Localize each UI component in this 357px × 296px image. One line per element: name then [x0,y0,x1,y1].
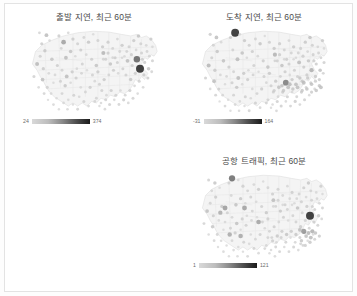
airport-marker [229,110,231,112]
airport-marker [237,246,240,249]
airport-marker [229,227,232,230]
airport-marker [305,196,308,199]
airport-marker [229,175,235,181]
airport-marker [248,44,251,47]
airport-marker [280,84,284,88]
airport-marker [102,78,105,81]
airport-marker [106,41,109,44]
airport-marker [236,57,240,61]
airport-marker [266,65,270,69]
airport-marker [250,219,253,222]
airport-marker [71,70,74,73]
airport-marker [232,94,235,97]
airport-marker [56,64,59,67]
airport-marker [271,198,275,202]
airport-marker [71,37,74,40]
airport-marker [277,221,280,224]
airport-marker [60,47,63,50]
airport-marker [299,242,302,245]
airport-marker [218,100,220,102]
airport-marker [100,102,103,105]
airport-marker [318,68,322,72]
airport-marker [274,255,277,258]
airport-marker [284,241,287,244]
airport-marker [258,42,261,45]
airport-marker [234,231,237,234]
airport-marker [254,101,257,104]
airport-marker [67,31,70,34]
airport-marker [274,246,277,249]
airport-marker [277,86,281,90]
airport-marker [140,52,143,55]
airport-marker [291,87,294,90]
airport-marker [320,218,323,221]
airport-marker [209,33,212,36]
airport-marker [308,227,311,230]
map-arrival-delay[interactable] [181,25,347,117]
airport-marker [242,72,245,75]
airport-marker [298,236,301,239]
airport-marker [283,58,286,61]
airport-marker [222,59,226,63]
airport-marker [82,100,85,103]
airport-marker [286,95,289,98]
airport-marker [270,249,273,252]
airport-marker [69,81,72,84]
airport-marker [225,244,227,246]
airport-marker [270,106,272,108]
airport-marker [252,73,255,76]
airport-marker [128,45,131,48]
airport-marker [75,76,78,79]
airport-marker [219,74,222,77]
airport-marker [52,81,54,83]
map-departure-delay[interactable] [11,25,177,117]
airport-marker [244,95,247,98]
airport-marker [297,249,300,252]
airport-marker [252,183,255,186]
airport-marker [266,186,269,189]
airport-marker [301,211,304,214]
airport-marker [204,76,207,79]
airport-marker [235,86,238,89]
airport-marker [230,194,233,197]
airport-marker [299,47,302,50]
airport-marker [281,194,284,197]
airport-marker [275,241,278,244]
legend-departure-delay: 24 374 [23,119,177,124]
panel-empty-placeholder [11,154,177,290]
map-airport-traffic[interactable] [181,169,347,261]
airport-marker [257,188,260,191]
airport-marker [312,53,315,56]
airport-marker [314,75,317,78]
airport-marker [277,188,280,191]
airport-marker [150,70,153,73]
airport-marker [296,86,300,90]
airport-marker [273,225,276,228]
airport-marker [95,97,98,100]
airport-marker [251,50,254,53]
airport-marker [322,72,325,75]
airport-marker [256,55,259,58]
airport-marker [251,210,254,213]
airport-marker [294,241,297,244]
airport-marker [234,103,237,106]
airport-marker [276,234,279,237]
airport-marker [135,49,138,52]
airport-marker [241,185,244,188]
airport-marker [251,88,254,91]
airport-marker [148,55,151,58]
airport-marker [278,42,281,45]
airport-marker [146,50,149,53]
airport-marker [220,41,223,44]
airport-marker [96,70,99,73]
airport-marker [213,181,216,184]
airport-marker [273,89,276,92]
airport-marker [207,178,210,181]
airport-marker [278,250,281,253]
panel-airport-traffic: 공항 트래픽, 최근 60분 1 121 [181,154,347,290]
airport-marker [61,40,66,45]
airport-marker [263,227,266,230]
airport-marker [262,75,265,78]
airport-marker [143,61,146,64]
airport-marker [310,82,314,86]
